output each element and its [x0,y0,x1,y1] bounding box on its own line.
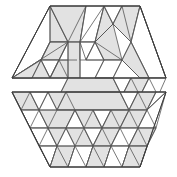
dissection-piece-l04 [57,92,129,110]
dissection-canvas [0,0,177,177]
hexagon-dissection-figure [0,0,177,177]
